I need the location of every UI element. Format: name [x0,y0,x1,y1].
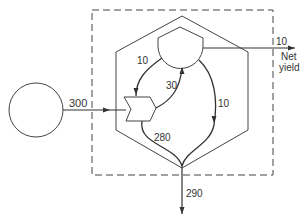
net-yield-value: 10 [276,36,288,47]
consumer-to-sink-flow [182,60,216,166]
producer-to-sink-label: 280 [154,132,171,143]
energy-source-circle [9,83,63,137]
energy-flow-diagram: 300 10 30 10 280 290 10 Net yield [0,0,307,220]
consumer-tank [158,27,203,69]
consumer-to-producer-label: 10 [137,55,149,66]
heat-sink-label: 290 [186,188,203,199]
net-yield-label-line1: Net [281,51,297,62]
producer-to-consumer-label: 30 [166,80,178,91]
net-yield-label-line2: yield [279,62,300,73]
input-flow-label: 300 [69,97,87,109]
producer-to-sink-flow [142,121,182,166]
consumer-to-sink-label: 10 [218,98,230,109]
producer-chevron [124,97,156,121]
